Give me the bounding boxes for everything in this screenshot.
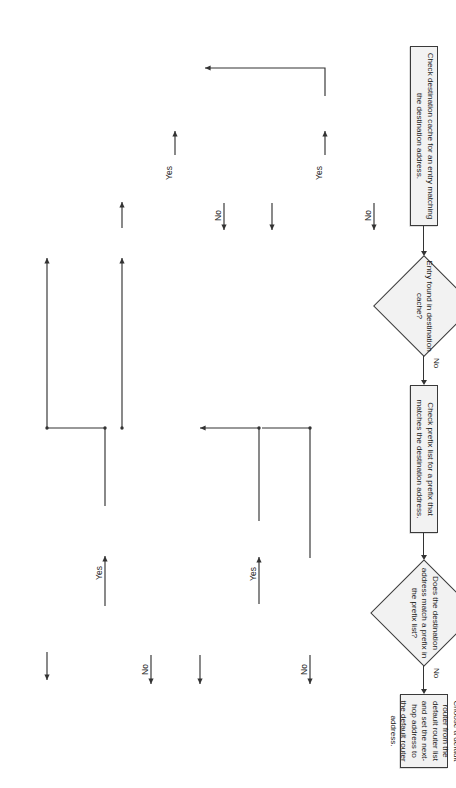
label-prefix-match-yes: Yes [248, 567, 258, 581]
label-entry-found-yes: Yes [94, 566, 104, 580]
label-resolution-yes: Yes [314, 166, 324, 180]
label-prefix-match-no: No [299, 664, 309, 675]
label-entry-found-no: No [140, 664, 150, 675]
edge-label-layer: Yes No Yes No Yes No Yes No [0, 0, 456, 788]
label-resolution-no: No [363, 210, 373, 221]
label-neighbor-cache-no: No [213, 210, 223, 221]
label-neighbor-cache-yes: Yes [164, 166, 174, 180]
